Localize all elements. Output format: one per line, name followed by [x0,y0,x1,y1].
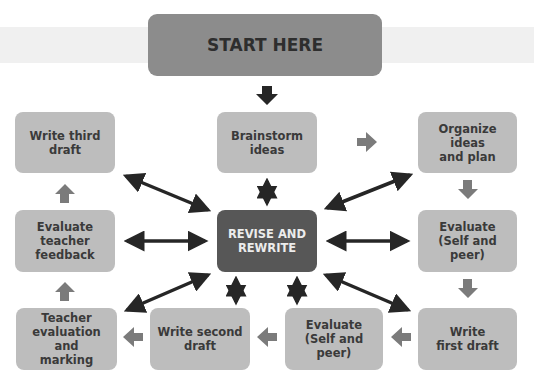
arrow-down-icon [458,279,478,298]
connector-write-third [126,176,208,210]
step-evaluate-teacher: Evaluate teacher feedback [15,210,115,272]
arrow-up-icon [55,282,75,301]
step-evaluate-1: Evaluate (Self and peer) [418,210,517,272]
step-label: Write third draft [30,129,101,157]
step-teacher-eval: Teacher evaluation and marking [16,308,117,370]
arrow-left-icon [123,327,143,347]
step-label: Write second draft [157,325,242,353]
arrow-right-icon [357,132,377,152]
arrow-left-icon [391,327,411,347]
step-label: Evaluate teacher feedback [35,220,94,262]
arrow-left-icon [257,327,277,347]
step-write-second: Write second draft [150,308,250,370]
connector-teacher-eval [127,275,208,310]
connector-organize [327,175,410,208]
step-write-first: Write first draft [418,308,517,370]
step-label: Organize ideas and plan [422,122,513,164]
revise-rewrite-box: REVISE AND REWRITE [217,210,317,272]
step-write-third: Write third draft [15,112,115,173]
arrow-up-icon [55,184,75,203]
step-brainstorm: Brainstorm ideas [217,112,317,173]
step-label: Write first draft [436,325,499,353]
step-label: Teacher evaluation and marking [20,311,113,367]
step-label: Evaluate (Self and peer) [289,318,379,360]
arrow-start-down-icon [256,86,278,105]
step-label: Evaluate (Self and peer) [422,220,513,262]
connector-write-first [326,275,408,310]
start-label: START HERE [207,38,323,52]
center-label: REVISE AND REWRITE [228,227,306,255]
step-evaluate-2: Evaluate (Self and peer) [285,308,383,370]
step-organize: Organize ideas and plan [418,112,517,173]
step-label: Brainstorm ideas [231,129,303,157]
arrow-down-icon [458,180,478,199]
start-here-box: START HERE [148,14,382,76]
